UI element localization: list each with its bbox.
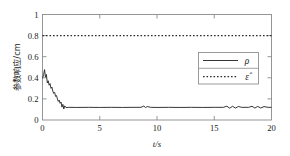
x-axis-ticks: [100, 15, 215, 121]
x-axis-title: t/s: [153, 139, 162, 149]
x-tick-label: 20: [267, 123, 276, 133]
y-tick-label: 0.8: [28, 31, 39, 41]
figure-container: 05101520 00.20.40.60.81 参数响应/cm t/s ρ ε̂: [0, 0, 290, 156]
x-tick-label: 5: [98, 123, 102, 133]
y-tick-label: 0: [34, 115, 38, 125]
y-tick-label: 1: [34, 10, 38, 20]
y-tick-label: 0.4: [28, 73, 39, 83]
x-tick-label: 10: [153, 123, 162, 133]
y-tick-label: 0.6: [28, 52, 39, 62]
legend-label-rho: ρ: [244, 56, 250, 66]
x-tick-label: 15: [210, 123, 219, 133]
y-axis-tick-labels: 00.20.40.60.81: [28, 10, 39, 126]
legend[interactable]: ρ ε̂: [199, 53, 259, 85]
x-axis-tick-labels: 05101520: [40, 123, 275, 133]
chart-svg: 05101520 00.20.40.60.81 参数响应/cm t/s ρ ε̂: [0, 0, 290, 156]
y-axis-title: 参数响应/cm: [12, 43, 22, 90]
y-tick-label: 0.2: [28, 94, 39, 104]
x-tick-label: 0: [40, 123, 44, 133]
